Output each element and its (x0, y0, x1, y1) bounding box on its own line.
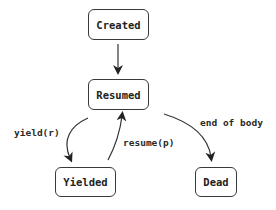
node-created-label: Created (96, 19, 140, 31)
node-yielded-label: Yielded (63, 176, 107, 188)
edge-resumed-yielded (67, 118, 88, 158)
edge-label-yield: yield(r) (14, 127, 60, 138)
edge-yielded-resumed (108, 116, 122, 160)
node-created: Created (88, 9, 149, 40)
edge-label-end-of-body: end of body (200, 117, 263, 128)
node-resumed-label: Resumed (96, 89, 140, 101)
edge-label-resume: resume(p) (123, 137, 174, 148)
node-resumed: Resumed (88, 79, 149, 110)
node-yielded: Yielded (55, 167, 116, 197)
node-dead: Dead (195, 167, 237, 197)
node-dead-label: Dead (203, 176, 228, 188)
